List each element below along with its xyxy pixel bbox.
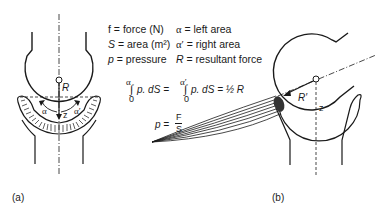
legend-definition: = left area	[184, 23, 231, 35]
diagram-a-alpha-label: α	[42, 106, 47, 116]
diagram-b-z-label: z	[319, 103, 324, 113]
legend-symbol: α′	[176, 39, 184, 50]
diagram-a-drawing	[18, 14, 101, 175]
diagram-b-caption: (b)	[272, 192, 284, 203]
legend-definition: = pressure	[117, 53, 167, 65]
legend-row: S = area (m²) α′ = right area	[108, 37, 262, 52]
pressure-numerator: F	[176, 112, 182, 122]
legend-symbol: α	[176, 24, 182, 35]
diagram-a-R-label: R	[62, 82, 69, 93]
legend-row: f = force (N) α = left area	[108, 22, 262, 37]
legend-symbol: S	[108, 38, 115, 50]
legend-symbol: R	[176, 53, 184, 65]
muscle-fibers	[152, 96, 280, 142]
legend-symbol: f	[108, 23, 111, 35]
legend-definition: = area (m²)	[118, 38, 170, 50]
legend: f = force (N) α = left area S = area (m²…	[108, 22, 262, 66]
legend-symbol: p	[108, 53, 114, 65]
integral-2-body: p. dS = ½ R	[191, 84, 244, 95]
legend-definition: = force (N)	[114, 23, 164, 35]
integral-1-body: p. dS =	[137, 84, 169, 95]
diagram-a-alpha-prime-label: α′	[74, 106, 81, 116]
diagram-a-z-label: z	[63, 110, 68, 120]
legend-definition: = resultant force	[187, 53, 263, 65]
legend-definition: = right area	[187, 38, 240, 50]
diagram-a-caption: (a)	[12, 192, 24, 203]
integral-1-lower: 0	[129, 94, 134, 104]
pressure-denominator: S	[176, 124, 182, 134]
legend-row: p = pressure R = resultant force	[108, 52, 262, 66]
pressure-lhs: p =	[155, 119, 169, 130]
diagram-b-R-prime-label: R′	[298, 92, 307, 103]
integral-2-lower: 0	[184, 94, 189, 104]
